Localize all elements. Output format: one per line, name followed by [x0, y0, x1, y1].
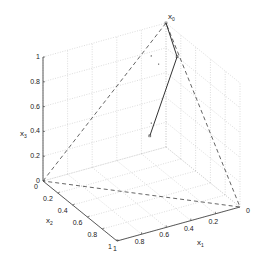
x1-tick-label: 0.8 — [135, 238, 145, 245]
x1-tick-label: 0.4 — [184, 225, 194, 232]
grid-line — [102, 195, 225, 229]
x1-tick-label: 0.2 — [209, 218, 219, 225]
x1-axis-line — [117, 207, 240, 241]
data-point — [158, 63, 159, 64]
grid-lines — [43, 23, 240, 241]
x2-tick-label: 0.2 — [43, 195, 53, 202]
grid-line — [58, 159, 181, 193]
grid-line — [43, 48, 166, 82]
x3-tick-label: 0.2 — [30, 152, 40, 159]
x1-tick-label: 0.6 — [159, 231, 169, 238]
tick-labels: 00.20.40.60.8100.20.40.60.810.20.40.60.8… — [30, 53, 250, 252]
grid-line — [92, 167, 166, 227]
x3-axis-label: x3 — [20, 129, 27, 139]
grid-line — [166, 147, 240, 207]
data-point — [151, 122, 152, 123]
grid-line — [117, 161, 191, 221]
grid-line — [166, 23, 240, 83]
grid-line — [166, 73, 240, 133]
grid-line — [166, 97, 240, 157]
x2-tick-label: 0.6 — [73, 219, 83, 226]
x0-vertex-label: x0 — [168, 12, 175, 22]
x2-tick-label: 0.4 — [58, 207, 68, 214]
x3-tick-label: 0.6 — [30, 103, 40, 110]
grid-line — [43, 122, 166, 156]
x1-tick-label: 1 — [113, 245, 117, 252]
x2-axis-label: x2 — [46, 216, 53, 226]
grid-line — [141, 154, 215, 214]
grid-line — [87, 183, 210, 217]
plot-3d: 00.20.40.60.8100.20.40.60.810.20.40.60.8… — [0, 0, 262, 266]
data-point — [151, 55, 152, 56]
x1-tick-label: 0 — [246, 207, 250, 214]
grid-line — [43, 23, 166, 57]
x2-tick-label: 1 — [108, 243, 112, 250]
x3-tick-label: 0.4 — [30, 127, 40, 134]
x3-tick-label: 0.8 — [30, 78, 40, 85]
x2-tick-label: 0 — [34, 183, 38, 190]
x1-axis-label: x1 — [197, 238, 204, 248]
x3-tick-label: 1 — [36, 53, 40, 60]
axis-labels: x3 x2 x1 x0 — [20, 12, 204, 248]
x2-axis-line — [43, 181, 117, 241]
grid-line — [166, 122, 240, 182]
grid-line — [73, 171, 196, 205]
x2-tick-label: 0.8 — [87, 231, 97, 238]
